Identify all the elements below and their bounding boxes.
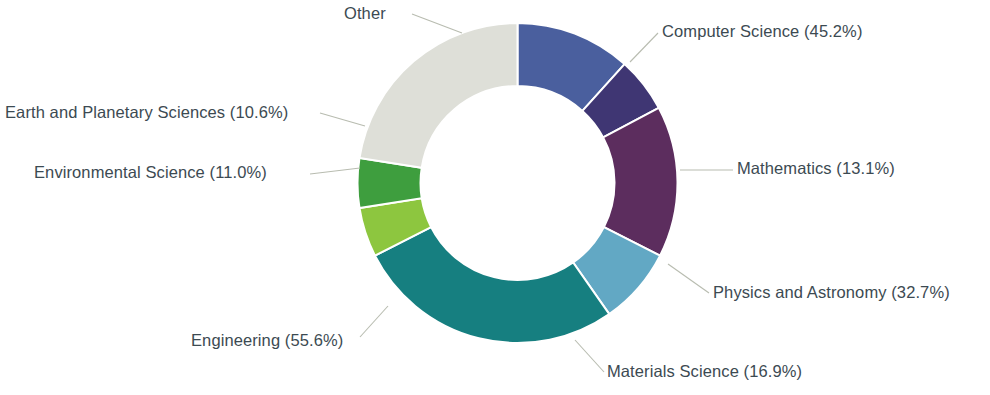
leader-line-other: [412, 14, 462, 33]
donut-slices: [358, 23, 678, 343]
slice-label-earth-and-planetary-sciences: Earth and Planetary Sciences (10.6%): [5, 103, 288, 121]
donut-chart: Other Computer Science (45.2%) Mathemati…: [0, 0, 990, 395]
slice-label-physics-and-astronomy: Physics and Astronomy (32.7%): [713, 283, 950, 301]
slice-label-mathematics: Mathematics (13.1%): [737, 159, 895, 177]
donut-chart-svg: [0, 0, 990, 395]
leader-line-materials-science: [575, 340, 604, 372]
leader-line-earth-planetary: [320, 113, 365, 126]
slice-label-materials-science: Materials Science (16.9%): [607, 362, 802, 380]
leader-line-environmental-science: [310, 168, 360, 174]
slice-label-engineering: Engineering (55.6%): [191, 331, 343, 349]
donut-slice-engineering: [375, 227, 609, 343]
slice-label-environmental-science: Environmental Science (11.0%): [34, 163, 267, 181]
leader-line-computer-science: [630, 33, 658, 62]
donut-slice-other: [359, 23, 517, 168]
leader-line-physics-and-astronomy: [668, 264, 709, 293]
leader-line-engineering: [360, 306, 388, 337]
slice-label-other: Other: [344, 4, 386, 22]
slice-label-computer-science: Computer Science (45.2%): [662, 22, 863, 40]
